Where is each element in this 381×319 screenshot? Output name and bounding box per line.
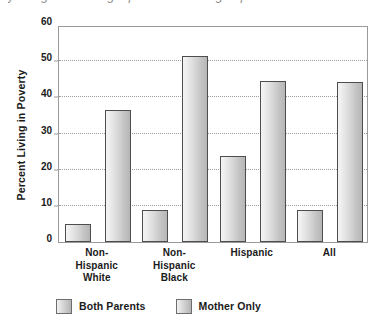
legend-label: Mother Only: [199, 300, 261, 312]
y-tick-label-60: 60: [26, 16, 52, 27]
bar-both-parents-group-1: [65, 224, 91, 242]
y-tick-label-30: 30: [26, 124, 52, 135]
bar-both-parents-group-4: [297, 210, 323, 242]
x-label-line: Hispanic: [136, 260, 214, 273]
x-axis-label-group-3: Hispanic: [213, 247, 291, 260]
bar-mother-only-group-2: [182, 56, 208, 242]
x-label-line: White: [58, 272, 136, 285]
y-tick-label-10: 10: [26, 196, 52, 207]
legend-swatch-icon: [176, 299, 192, 314]
legend-label: Both Parents: [79, 300, 146, 312]
poverty-bar-chart-figure: y living with a single parent are living…: [0, 0, 381, 319]
plot-area: [58, 26, 368, 243]
x-axis-category-labels: Non-HispanicWhiteNon-HispanicBlackHispan…: [58, 247, 368, 289]
x-axis-label-group-2: Non-HispanicBlack: [136, 247, 214, 285]
bar-both-parents-group-2: [142, 210, 168, 242]
y-tick-label-0: 0: [26, 233, 52, 244]
x-label-line: All: [291, 247, 369, 260]
y-tick-label-40: 40: [26, 88, 52, 99]
bars-layer: [59, 27, 367, 242]
legend-swatch-icon: [56, 299, 72, 314]
x-axis-label-group-1: Non-HispanicWhite: [58, 247, 136, 285]
y-tick-label-50: 50: [26, 52, 52, 63]
bar-mother-only-group-3: [260, 81, 286, 242]
bar-mother-only-group-4: [337, 82, 363, 242]
x-label-line: Non-: [58, 247, 136, 260]
y-tick-label-20: 20: [26, 160, 52, 171]
x-label-line: Non-: [136, 247, 214, 260]
bar-mother-only-group-1: [105, 110, 131, 242]
x-label-line: Black: [136, 272, 214, 285]
y-axis-tick-labels: 0102030405060: [20, 26, 52, 243]
clipped-caption-text: y living with a single parent are living…: [8, 0, 258, 3]
x-axis-label-group-4: All: [291, 247, 369, 260]
x-label-line: Hispanic: [58, 260, 136, 273]
legend-item-mother-only[interactable]: Mother Only: [176, 299, 261, 314]
x-label-line: Hispanic: [213, 247, 291, 260]
bar-both-parents-group-3: [220, 156, 246, 242]
chart-legend: Both ParentsMother Only: [56, 296, 261, 316]
legend-item-both-parents[interactable]: Both Parents: [56, 299, 146, 314]
